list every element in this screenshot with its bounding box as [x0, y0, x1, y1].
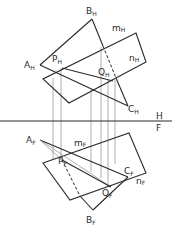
- label-q-f: QF: [102, 188, 113, 199]
- plane-mn-front: [43, 133, 146, 200]
- label-p-f: PF: [58, 156, 67, 167]
- label-m-h: mH: [112, 23, 125, 33]
- label-b-f: BF: [86, 215, 96, 226]
- label-c-f: CF: [124, 166, 134, 177]
- label-a-h: AH: [24, 60, 35, 71]
- label-p-h: PH: [52, 54, 62, 65]
- intersection-pq-front: [62, 160, 111, 187]
- plane-mn-top: [43, 33, 146, 103]
- label-q-h: QH: [98, 67, 110, 78]
- label-a-f: AF: [26, 135, 36, 146]
- label-c-h: CH: [128, 104, 139, 115]
- fold-label-h: H: [156, 111, 163, 121]
- edge-ab-front-lower: [80, 196, 93, 210]
- label-n-h: nH: [129, 53, 139, 63]
- edge-bc-top-visible: [92, 19, 103, 46]
- fold-label-f: F: [156, 123, 161, 133]
- diagram-canvas: H F BH AH PH QH CH mH nH AF mF PF CF nF: [0, 0, 172, 233]
- label-b-h: BH: [86, 6, 97, 17]
- label-n-f: nF: [136, 176, 146, 186]
- label-m-f: mF: [74, 138, 87, 148]
